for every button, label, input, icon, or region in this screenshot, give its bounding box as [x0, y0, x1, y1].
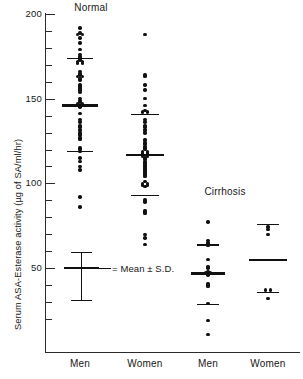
data-point	[269, 288, 272, 291]
y-tick-minor-20	[46, 319, 52, 320]
data-point	[206, 244, 209, 247]
y-tick-minor-80	[46, 217, 52, 218]
data-point	[78, 48, 81, 51]
data-point	[204, 271, 207, 274]
data-point	[206, 333, 209, 336]
data-point	[78, 112, 81, 115]
data-point	[209, 271, 212, 274]
data-point	[78, 26, 81, 29]
data-point	[78, 165, 81, 168]
data-point	[143, 88, 146, 91]
data-point	[143, 212, 146, 215]
data-point	[78, 41, 81, 44]
data-point	[146, 110, 149, 113]
y-tick-minor-60	[46, 251, 52, 252]
y-tick-minor-70	[46, 234, 52, 235]
data-point	[78, 138, 81, 141]
data-point	[143, 33, 146, 36]
sd-line-lower-3	[257, 292, 279, 293]
y-tick-major-150	[46, 99, 55, 100]
data-point	[206, 258, 209, 261]
group-label-normal: Normal	[46, 2, 136, 13]
y-tick-label-150: 150	[16, 93, 42, 104]
data-point	[78, 36, 81, 39]
data-point	[78, 205, 81, 208]
data-point	[143, 75, 146, 78]
x-category-label-cirrhosis-women: Women	[233, 358, 303, 369]
y-tick-minor-110	[46, 166, 52, 167]
data-point	[78, 168, 81, 171]
y-tick-minor-120	[46, 150, 52, 151]
data-point	[206, 220, 209, 223]
data-point	[266, 297, 269, 300]
data-point	[143, 236, 146, 239]
y-tick-minor-190	[46, 31, 52, 32]
data-point	[78, 77, 81, 80]
data-point	[206, 319, 209, 322]
legend-errorbar-bottom-cap	[71, 300, 92, 301]
data-point	[78, 160, 81, 163]
sd-line-lower-1	[131, 195, 159, 196]
y-tick-minor-170	[46, 65, 52, 66]
data-point	[76, 61, 79, 64]
y-tick-major-100	[46, 183, 55, 184]
y-tick-minor-30	[46, 302, 52, 303]
y-tick-major-200	[46, 14, 55, 15]
data-point	[143, 185, 146, 188]
legend-errorbar-mean	[64, 267, 99, 269]
x-category-label-normal-men: Men	[45, 358, 115, 369]
y-tick-minor-180	[46, 48, 52, 49]
data-point	[143, 175, 146, 178]
data-point	[143, 97, 146, 100]
y-tick-label-100: 100	[16, 177, 42, 188]
data-point	[266, 228, 269, 231]
sd-line-upper-1	[131, 114, 159, 115]
data-point	[143, 200, 146, 203]
data-point	[143, 83, 146, 86]
y-tick-minor-40	[46, 285, 52, 286]
y-tick-minor-140	[46, 116, 52, 117]
y-tick-minor-130	[46, 133, 52, 134]
data-point	[141, 110, 144, 113]
data-point	[266, 233, 269, 236]
data-point	[78, 105, 81, 108]
chart-figure: Serum ASA-Esterase activity (µg of SA/ml…	[0, 0, 303, 379]
y-axis-title: Serum ASA-Esterase activity (µg of SA/ml…	[13, 139, 23, 330]
data-point	[264, 288, 267, 291]
x-category-label-normal-women: Women	[110, 358, 180, 369]
mean-line-3	[249, 259, 287, 262]
data-point	[78, 195, 81, 198]
legend-errorbar-top-cap	[71, 252, 92, 253]
x-axis-line	[45, 352, 300, 353]
data-point	[143, 131, 146, 134]
y-tick-label-200: 200	[16, 8, 42, 19]
y-tick-major-50	[46, 268, 55, 269]
y-tick-minor-90	[46, 200, 52, 201]
legend-errorbar-stem	[81, 252, 82, 301]
y-tick-label-50: 50	[16, 262, 42, 273]
group-label-cirrhosis: Cirrhosis	[180, 186, 270, 197]
data-point	[143, 243, 146, 246]
data-point	[206, 285, 209, 288]
data-point	[78, 90, 81, 93]
y-tick-minor-160	[46, 82, 52, 83]
data-point	[143, 104, 146, 107]
data-point	[206, 302, 209, 305]
legend-label: = Mean ± S.D.	[112, 263, 174, 274]
legend-connector	[99, 268, 111, 269]
data-point	[78, 150, 81, 153]
data-point	[81, 61, 84, 64]
